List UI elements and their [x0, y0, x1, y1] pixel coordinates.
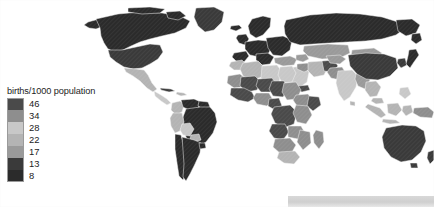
legend-swatch-13: [7, 158, 24, 170]
legend-swatch-8: [7, 170, 24, 182]
legend-swatch-17: [7, 146, 24, 158]
legend-swatch-34: [7, 110, 24, 122]
legend-swatch-46: [7, 98, 24, 110]
legend-label-34: 34: [29, 110, 39, 122]
legend-entry: 46: [7, 98, 125, 110]
legend-label-22: 22: [29, 134, 39, 146]
legend-label-13: 13: [29, 158, 39, 170]
legend-title: births/1000 population: [7, 86, 125, 97]
legend-swatch-22: [7, 134, 24, 146]
legend-entry: 13: [7, 158, 125, 170]
scan-artifact-bar: [288, 196, 434, 207]
legend-label-28: 28: [29, 122, 39, 134]
legend-swatch-28: [7, 122, 24, 134]
legend-label-17: 17: [29, 146, 39, 158]
legend-entry: 22: [7, 134, 125, 146]
legend-entry-list: 46 34 28 22 17 13: [7, 98, 125, 182]
legend-entry: 28: [7, 122, 125, 134]
legend-entry: 8: [7, 170, 125, 182]
legend-entry: 17: [7, 146, 125, 158]
world-map-figure: births/1000 population 46 34 28 22 17: [0, 0, 434, 207]
legend-label-46: 46: [29, 98, 39, 110]
legend-label-8: 8: [29, 170, 34, 182]
legend-entry: 34: [7, 110, 125, 122]
map-legend: births/1000 population 46 34 28 22 17: [7, 86, 125, 182]
